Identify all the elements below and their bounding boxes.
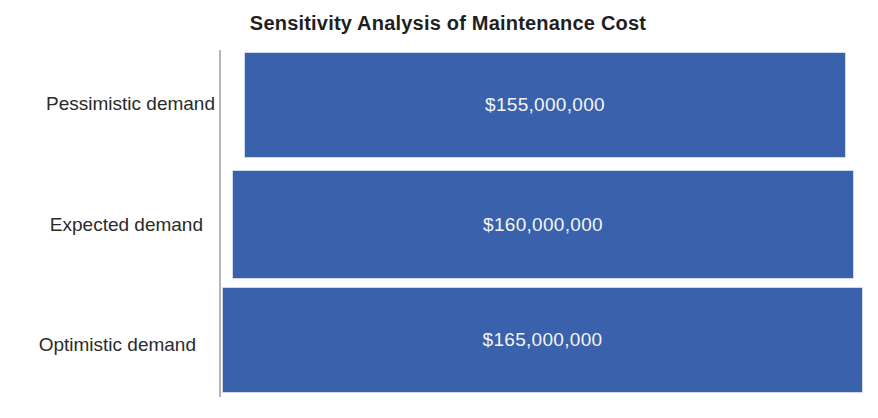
y-axis-line bbox=[219, 50, 221, 397]
category-label-optimistic: Optimistic demand bbox=[0, 334, 196, 356]
bar-pessimistic-demand: $155,000,000 bbox=[245, 53, 845, 157]
bar-optimistic-demand: $165,000,000 bbox=[223, 288, 862, 392]
sensitivity-bar-chart: Sensitivity Analysis of Maintenance Cost… bbox=[0, 0, 878, 418]
bar-expected-demand: $160,000,000 bbox=[233, 171, 853, 278]
bar-value-pessimistic: $155,000,000 bbox=[485, 94, 605, 116]
category-label-pessimistic: Pessimistic demand bbox=[0, 93, 215, 115]
chart-title: Sensitivity Analysis of Maintenance Cost bbox=[250, 12, 646, 35]
bar-value-expected: $160,000,000 bbox=[483, 214, 603, 236]
category-label-expected: Expected demand bbox=[0, 214, 203, 236]
bar-value-optimistic: $165,000,000 bbox=[483, 329, 603, 351]
